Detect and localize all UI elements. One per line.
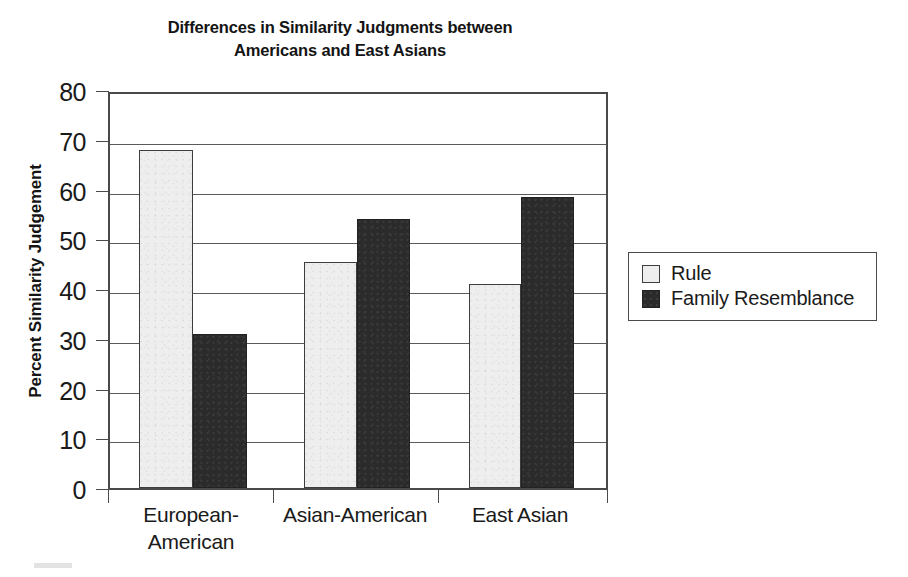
y-tick-label-60: 60 bbox=[59, 179, 86, 204]
x-tick-label-east-asian: East Asian bbox=[430, 502, 610, 529]
y-tick-label-40: 40 bbox=[59, 279, 86, 304]
bar-rule-european-american[interactable] bbox=[139, 150, 193, 488]
x-tick-label-asian-american: Asian-American bbox=[250, 502, 460, 529]
y-tick-label-20: 20 bbox=[59, 378, 86, 403]
legend-item-family-resemblance[interactable]: Family Resemblance bbox=[642, 286, 876, 311]
plot-area bbox=[108, 92, 608, 490]
scan-artifact-mark bbox=[34, 563, 72, 568]
legend-label-family-resemblance: Family Resemblance bbox=[671, 287, 854, 310]
gridline-70 bbox=[110, 144, 606, 145]
y-tick-label-30: 30 bbox=[59, 328, 86, 353]
bar-rule-asian-american[interactable] bbox=[304, 262, 357, 488]
x-axis-tick-labels: European- American Asian-American East A… bbox=[108, 502, 608, 572]
legend-swatch-rule-icon bbox=[642, 265, 660, 283]
bar-family-european-american[interactable] bbox=[193, 334, 247, 488]
bar-family-east-asian[interactable] bbox=[521, 197, 574, 488]
chart-title: Differences in Similarity Judgments betw… bbox=[60, 16, 620, 63]
y-tick-label-0: 0 bbox=[73, 478, 86, 503]
y-tick-label-10: 10 bbox=[59, 428, 86, 453]
y-axis-tick-labels: 80 70 60 50 40 30 20 10 0 bbox=[40, 92, 98, 490]
legend-item-rule[interactable]: Rule bbox=[642, 261, 876, 286]
y-tick-label-50: 50 bbox=[59, 229, 86, 254]
y-tick-label-70: 70 bbox=[59, 129, 86, 154]
legend-label-rule: Rule bbox=[671, 262, 711, 285]
bar-family-asian-american[interactable] bbox=[357, 219, 410, 488]
bar-rule-east-asian[interactable] bbox=[469, 284, 521, 488]
y-tick-label-80: 80 bbox=[59, 80, 86, 105]
legend-swatch-family-resemblance-icon bbox=[642, 290, 660, 308]
chart-legend: Rule Family Resemblance bbox=[628, 252, 877, 321]
